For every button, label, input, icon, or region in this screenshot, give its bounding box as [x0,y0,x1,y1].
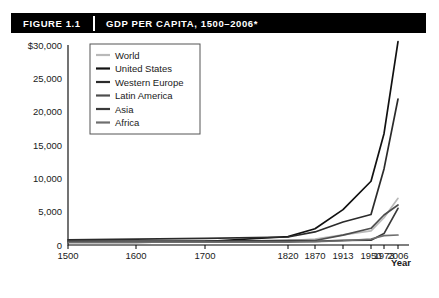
series-line-asia [68,208,398,241]
x-tick-label: 1820 [277,250,298,261]
y-tick-label: 0 [57,240,62,251]
figure-header-bar: FIGURE 1.1 GDP PER CAPITA, 1500–2006* [11,13,426,33]
figure-number-label: FIGURE 1.1 [11,18,93,29]
y-tick-label: 20,000 [33,106,62,117]
legend-label-latin-america: Latin America [115,90,173,101]
line-chart: $30,00025,00020,00015,00010,0005,0000 15… [11,33,426,280]
legend-label-united-states: United States [115,63,172,74]
legend-label-western-europe: Western Europe [115,77,183,88]
x-tick-label: 1600 [125,250,146,261]
plot-area: $30,00025,00020,00015,00010,0005,0000 15… [11,33,426,280]
legend-label-africa: Africa [115,117,140,128]
y-tick-label: 25,000 [33,73,62,84]
figure-container: FIGURE 1.1 GDP PER CAPITA, 1500–2006* $3… [0,0,439,298]
chart-legend: WorldUnited StatesWestern EuropeLatin Am… [90,44,200,134]
x-tick-label: 1913 [332,250,353,261]
legend-label-asia: Asia [115,104,134,115]
series-line-latin-america [68,205,398,242]
x-axis-title: Year [391,257,411,268]
x-tick-label: 1500 [57,250,78,261]
legend-box [90,44,200,134]
x-tick-label: 1870 [304,250,325,261]
x-tick-label: 1700 [194,250,215,261]
y-tick-label: 5,000 [38,206,62,217]
x-axis-tick-labels: 150016001700182018701913195019732006 [57,250,408,261]
axis-tick-marks [68,245,398,249]
y-tick-label: $30,000 [28,40,62,51]
y-tick-label: 15,000 [33,140,62,151]
y-axis-tick-labels: $30,00025,00020,00015,00010,0005,0000 [28,40,62,251]
figure-title: GDP PER CAPITA, 1500–2006* [95,18,258,29]
y-tick-label: 10,000 [33,173,62,184]
legend-label-world: World [115,50,140,61]
